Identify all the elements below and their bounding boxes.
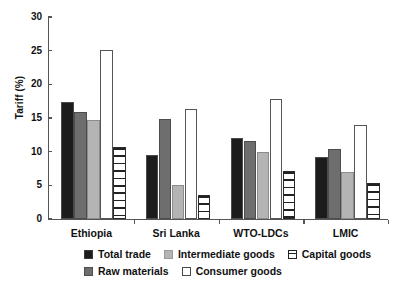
bar-lmic-inter — [341, 172, 354, 219]
plot-area — [49, 17, 388, 219]
y-axis-tick-label: 20 — [12, 79, 42, 89]
legend-row-2: Raw materialsConsumer goods — [60, 263, 390, 280]
x-axis-tick — [134, 220, 135, 224]
x-axis-group-label: LMIC — [303, 227, 388, 239]
striped-icon — [288, 250, 297, 259]
bar-ethiopia-raw — [74, 112, 87, 219]
legend-item-total-trade: Total trade — [84, 249, 151, 260]
legend-item-consumer-goods: Consumer goods — [182, 266, 282, 277]
legend-label: Consumer goods — [196, 266, 282, 277]
y-axis-tick-label: 30 — [12, 12, 42, 22]
solid-black-icon — [84, 250, 93, 259]
bar-ethiopia-capital — [113, 147, 126, 219]
bar-lmic-capital — [367, 183, 380, 219]
bar-wto-ldcs-raw — [244, 141, 257, 219]
x-axis-tick — [388, 220, 389, 224]
bar-wto-ldcs-capital — [283, 171, 296, 219]
x-axis-group-label: Ethiopia — [49, 227, 134, 239]
bar-ethiopia-inter — [87, 120, 100, 219]
tariff-bar-chart: Tariff (%) 051015202530 EthiopiaSri Lank… — [0, 0, 405, 288]
solid-dark-gray-icon — [84, 267, 93, 276]
y-axis-tick-label: 25 — [12, 46, 42, 56]
legend-item-capital-goods: Capital goods — [288, 249, 371, 260]
x-axis-group-label: Sri Lanka — [134, 227, 219, 239]
bar-wto-ldcs-consumer — [270, 99, 283, 219]
bar-sri-lanka-capital — [198, 195, 211, 219]
open-white-icon — [182, 267, 191, 276]
x-axis-tick — [303, 220, 304, 224]
bar-wto-ldcs-total — [231, 138, 244, 219]
bar-sri-lanka-inter — [172, 185, 185, 219]
bar-ethiopia-total — [61, 102, 74, 219]
bar-lmic-consumer — [354, 125, 367, 219]
legend-label: Raw materials — [98, 266, 169, 277]
bar-sri-lanka-raw — [159, 119, 172, 219]
chart-legend: Total tradeIntermediate goodsCapital goo… — [60, 246, 390, 280]
solid-light-gray-icon — [164, 250, 173, 259]
bar-wto-ldcs-inter — [257, 152, 270, 219]
y-axis-tick-label: 0 — [12, 214, 42, 224]
legend-row-1: Total tradeIntermediate goodsCapital goo… — [60, 246, 390, 263]
bar-sri-lanka-consumer — [185, 109, 198, 219]
bar-lmic-total — [315, 157, 328, 219]
y-axis-tick-label: 15 — [12, 113, 42, 123]
legend-item-raw-materials: Raw materials — [84, 266, 169, 277]
y-axis-title: Tariff (%) — [14, 43, 25, 153]
legend-label: Capital goods — [302, 249, 371, 260]
x-axis-group-label: WTO-LDCs — [219, 227, 304, 239]
x-axis-tick — [219, 220, 220, 224]
bar-ethiopia-consumer — [100, 50, 113, 219]
y-axis-tick-label: 10 — [12, 147, 42, 157]
legend-label: Intermediate goods — [178, 249, 275, 260]
bar-sri-lanka-total — [146, 155, 159, 219]
legend-label: Total trade — [98, 249, 151, 260]
bar-lmic-raw — [328, 149, 341, 219]
y-axis-tick-label: 5 — [12, 180, 42, 190]
legend-item-intermediate-goods: Intermediate goods — [164, 249, 275, 260]
